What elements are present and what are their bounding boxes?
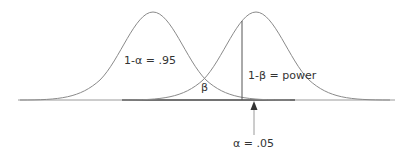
beta-label: β	[201, 81, 208, 94]
power-label: 1-β = power	[248, 69, 316, 82]
alpha-label: α = .05	[233, 137, 274, 150]
power-diagram	[0, 0, 410, 156]
null-region-label: 1-α = .95	[124, 54, 176, 67]
alpha-arrow-icon	[251, 101, 258, 110]
